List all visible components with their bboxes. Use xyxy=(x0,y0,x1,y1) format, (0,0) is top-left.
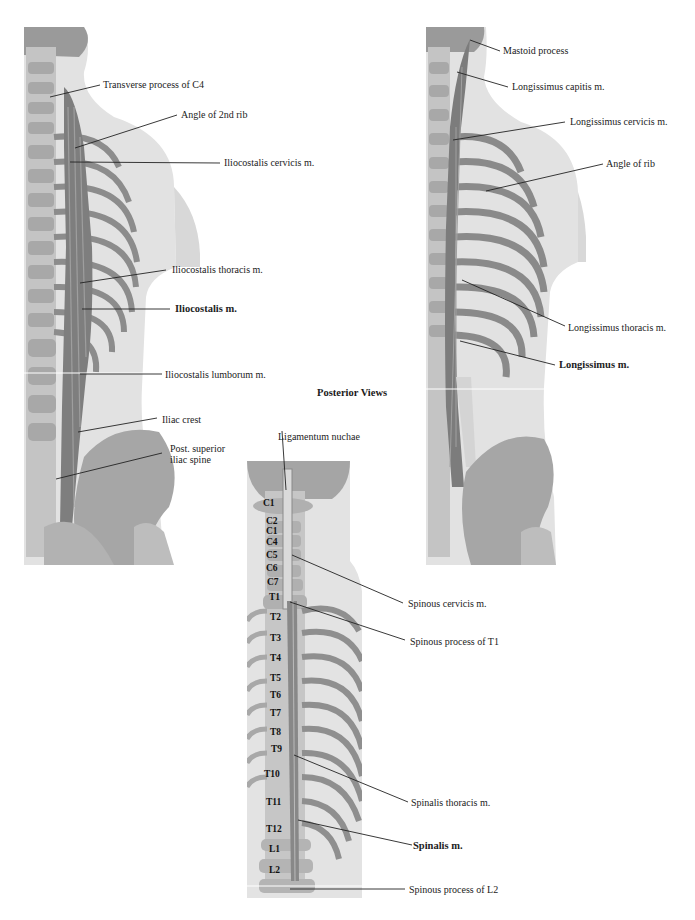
vertebra-label: T1 xyxy=(269,592,280,602)
label-transverse-process-c4: Transverse process of C4 xyxy=(103,79,204,90)
label-spinous-process-l2: Spinous process of L2 xyxy=(409,884,498,895)
label-iliac-spine: iliac spine xyxy=(170,454,211,465)
label-spinalis: Spinalis m. xyxy=(413,840,463,851)
vertebra-label: T6 xyxy=(270,690,281,700)
label-iliocostalis-lumborum: Iliocostalis lumborum m. xyxy=(165,369,266,380)
label-angle-of-rib: Angle of rib xyxy=(606,158,655,169)
vertebra-label: C1 xyxy=(263,498,275,508)
vertebra-label: T11 xyxy=(266,797,281,807)
vertebra-label: C5 xyxy=(266,550,278,560)
vertebra-label: C4 xyxy=(266,537,278,547)
vertebra-label: T9 xyxy=(271,744,282,754)
iliocostalis-drawing xyxy=(24,27,200,565)
vertebra-label: C6 xyxy=(266,563,278,573)
vertebra-label: C7 xyxy=(267,577,279,587)
label-longissimus: Longissimus m. xyxy=(559,359,629,370)
label-spinous-process-t1: Spinous process of T1 xyxy=(410,636,499,647)
label-iliocostalis-thoracis: Iliocostalis thoracis m. xyxy=(172,264,263,275)
label-post-superior: Post. superior xyxy=(170,443,225,454)
vertebra-label: C2 xyxy=(266,516,278,526)
spinalis-drawing xyxy=(247,461,362,898)
vertebra-label: T8 xyxy=(270,727,281,737)
label-mastoid-process: Mastoid process xyxy=(503,45,568,56)
vertebra-label: T12 xyxy=(266,824,282,834)
vertebra-label: T2 xyxy=(270,612,281,622)
vertebra-label: T3 xyxy=(270,633,281,643)
label-longissimus-capitis: Longissimus capitis m. xyxy=(512,81,605,92)
vertebra-label: L2 xyxy=(269,865,280,875)
longissimus-drawing xyxy=(426,27,586,565)
label-iliocostalis-cervicis: Iliocostalis cervicis m. xyxy=(224,157,314,168)
vertebra-label: T4 xyxy=(270,653,281,663)
label-iliocostalis: Iliocostalis m. xyxy=(175,303,237,314)
vertebra-label: T7 xyxy=(270,708,281,718)
label-iliac-crest: Iliac crest xyxy=(162,414,201,425)
iliocostalis-illustration xyxy=(24,27,200,565)
label-angle-2nd-rib: Angle of 2nd rib xyxy=(181,109,247,120)
label-spinous-cervicis: Spinous cervicis m. xyxy=(408,598,487,609)
label-longissimus-cervicis: Longissimus cervicis m. xyxy=(570,116,668,127)
vertebra-label: T10 xyxy=(264,769,280,779)
vertebra-label: T5 xyxy=(270,673,281,683)
label-longissimus-thoracis: Longissimus thoracis m. xyxy=(568,322,666,333)
label-spinalis-thoracis: Spinalis thoracis m. xyxy=(411,797,490,808)
figure-title: Posterior Views xyxy=(317,387,387,398)
vertebra-label: C1 xyxy=(266,526,278,536)
spinalis-illustration: C1 C2 C1 C4 C5 C6 C7 T1 T2 T3 T4 T5 T6 T… xyxy=(247,461,362,898)
longissimus-illustration xyxy=(426,27,586,565)
vertebra-label: L1 xyxy=(269,844,280,854)
label-ligamentum-nuchae: Ligamentum nuchae xyxy=(278,431,360,442)
